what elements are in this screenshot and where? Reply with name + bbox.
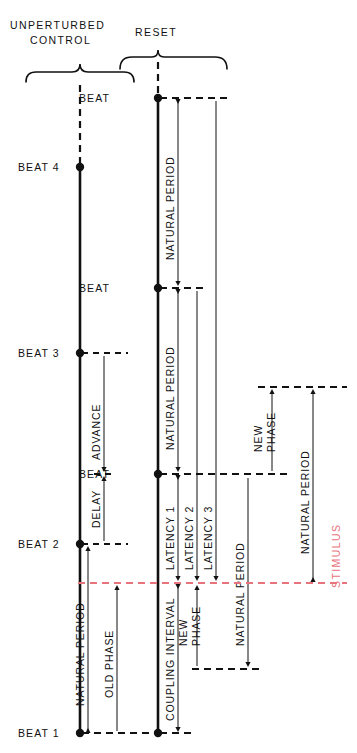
reset-newphase-upper-label-1: NEW [252, 425, 264, 452]
control-delay-label: DELAY [90, 490, 102, 528]
header-reset: RESET [135, 26, 177, 38]
reset-coupling-interval-label: COUPLING INTERVAL [164, 598, 176, 721]
control-column: BEAT 4 BEAT 3 BEAT 2 BEAT 1 ADVANCE DELA… [18, 85, 155, 739]
brace-control [26, 64, 134, 82]
header-unperturbed: UNPERTURBED [10, 19, 105, 31]
reset-beat-label-second: BEAT [79, 282, 110, 294]
reset-latency2-label: LATENCY 2 [183, 506, 195, 570]
brace-reset [120, 50, 227, 69]
reset-natural-period-label-4: NATURAL PERIOD [299, 450, 311, 554]
reset-natural-period-label-2: NATURAL PERIOD [164, 346, 176, 450]
stimulus-label: STIMULUS [330, 524, 342, 588]
timing-diagram: UNPERTURBED CONTROL RESET BEAT 4 BEAT 3 … [0, 0, 357, 753]
reset-latency1-label: LATENCY 1 [164, 506, 176, 570]
control-beat-label-1: BEAT 1 [18, 727, 60, 739]
reset-latency3-label: LATENCY 3 [202, 506, 214, 570]
reset-natural-period-label-1: NATURAL PERIOD [164, 156, 176, 260]
control-beat-label-3: BEAT 3 [18, 347, 60, 359]
control-natural-period-label: NATURAL PERIOD [74, 602, 86, 706]
reset-column: BEAT BEAT BEAT NATURAL PERIOD NATURAL PE… [79, 62, 347, 737]
reset-newphase-lower-label-1: NEW [177, 619, 189, 646]
control-old-phase-label: OLD PHASE [103, 630, 115, 698]
reset-newphase-lower-label-2: PHASE [190, 606, 202, 646]
reset-beat-label-third: BEAT [79, 468, 110, 480]
reset-natural-period-label-3: NATURAL PERIOD [234, 542, 246, 646]
control-beat-label-4: BEAT 4 [18, 161, 60, 173]
control-advance-label: ADVANCE [90, 404, 102, 460]
reset-newphase-upper-label-2: PHASE [265, 412, 277, 452]
control-beat-label-2: BEAT 2 [18, 538, 60, 550]
header-control: CONTROL [30, 34, 91, 46]
control-beat-dot-4 [76, 163, 84, 171]
reset-beat-label-top: BEAT [79, 92, 110, 104]
